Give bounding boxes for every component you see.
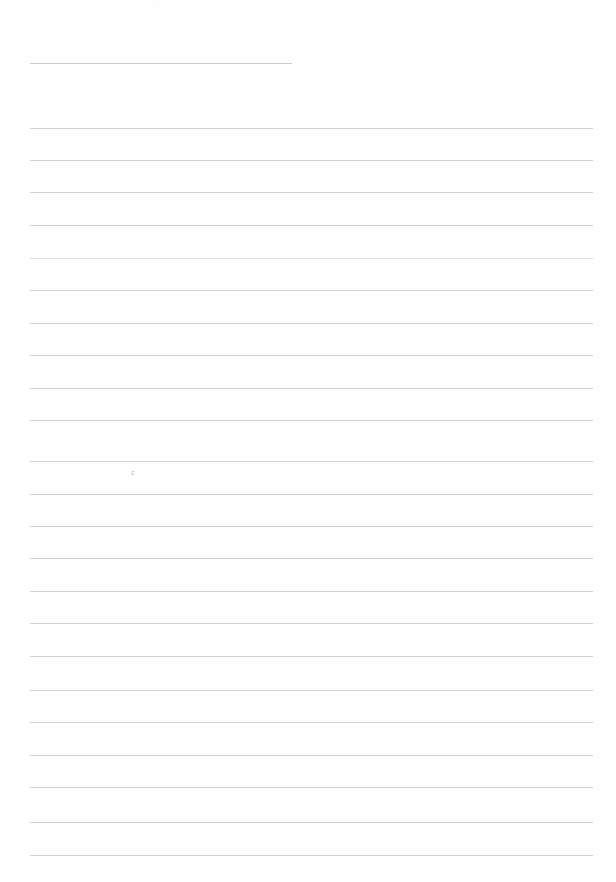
writing-area[interactable] bbox=[0, 0, 616, 882]
document-page: c· bbox=[0, 0, 616, 882]
